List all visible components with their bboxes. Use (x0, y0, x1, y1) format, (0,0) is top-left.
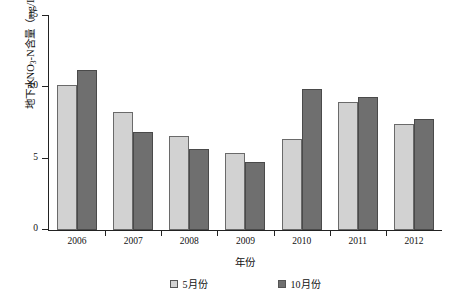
y-axis-tick-label: 10 (29, 80, 39, 90)
bar-group: 2008 (161, 136, 217, 230)
bar-group: 2010 (274, 89, 330, 230)
bar-may-2009 (225, 153, 245, 230)
bar-may-2007 (113, 112, 133, 230)
bar-oct-2008 (189, 149, 209, 230)
chart-figure: 地下水NO3-N含量（mg/L） 05101520062007200820092… (0, 0, 463, 300)
x-axis-tick-label: 2009 (216, 236, 276, 246)
bar-group: 2009 (217, 153, 273, 230)
plot-area: 0510152006200720082009201020112012 (48, 16, 442, 231)
bar-oct-2006 (77, 70, 97, 230)
x-axis-tick-label: 2011 (328, 236, 388, 246)
chart-legend: 5月份 10月份 (48, 276, 442, 291)
bar-may-2012 (394, 124, 414, 230)
bar-oct-2010 (302, 89, 322, 230)
y-axis-tick: 15 (42, 15, 49, 16)
legend-item-may: 5月份 (170, 276, 208, 291)
y-axis-title: 地下水NO3-N含量（mg/L） (22, 0, 38, 138)
legend-swatch-may (170, 280, 178, 288)
y-axis-tick-label: 0 (33, 223, 38, 233)
bar-group: 2006 (49, 70, 105, 230)
x-axis-tick-label: 2008 (159, 236, 219, 246)
legend-swatch-oct (278, 280, 286, 288)
y-axis-tick-label: 15 (29, 9, 39, 19)
y-axis-tick: 10 (42, 86, 49, 87)
bar-may-2008 (169, 136, 189, 230)
bar-oct-2009 (245, 162, 265, 230)
x-axis-tick-label: 2010 (272, 236, 332, 246)
bar-group: 2011 (330, 97, 386, 230)
y-axis-tick: 5 (42, 158, 49, 159)
legend-label-oct: 10月份 (291, 276, 321, 291)
y-axis-title-subscript: 3 (29, 60, 38, 64)
x-axis-title: 年份 (48, 254, 442, 269)
legend-label-may: 5月份 (183, 276, 208, 291)
bar-may-2010 (282, 139, 302, 230)
bar-may-2006 (57, 85, 77, 230)
x-axis-tick-label: 2006 (47, 236, 107, 246)
bar-oct-2012 (414, 119, 434, 230)
x-axis-tick-label: 2012 (384, 236, 444, 246)
y-axis-tick: 0 (42, 229, 49, 230)
x-axis-tick-label: 2007 (103, 236, 163, 246)
bar-group: 2007 (105, 112, 161, 230)
bar-oct-2011 (358, 97, 378, 230)
bar-group: 2012 (386, 119, 442, 230)
legend-item-oct: 10月份 (278, 276, 321, 291)
bar-may-2011 (338, 102, 358, 230)
y-axis-tick-label: 5 (33, 152, 38, 162)
bar-oct-2007 (133, 132, 153, 230)
